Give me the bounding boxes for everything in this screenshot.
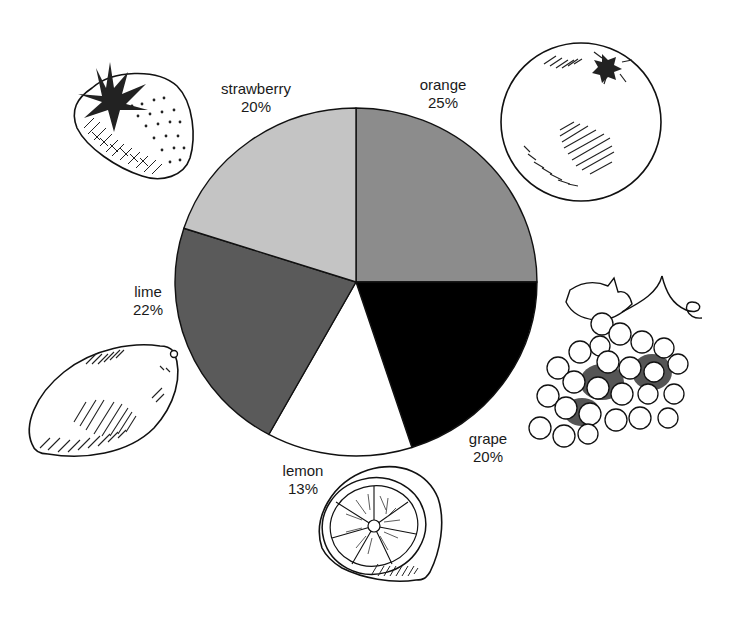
label-lime: lime 22% bbox=[118, 283, 178, 319]
label-grape: grape 20% bbox=[458, 430, 518, 466]
label-lime-pct: 22% bbox=[118, 301, 178, 319]
lime-illustration bbox=[24, 336, 200, 466]
label-lime-name: lime bbox=[118, 283, 178, 301]
label-strawberry: strawberry 20% bbox=[208, 80, 304, 116]
label-orange-name: orange bbox=[403, 76, 483, 94]
label-strawberry-pct: 20% bbox=[208, 98, 304, 116]
label-grape-name: grape bbox=[458, 430, 518, 448]
label-orange: orange 25% bbox=[403, 76, 483, 112]
label-orange-pct: 25% bbox=[403, 94, 483, 112]
pie-slices bbox=[175, 108, 537, 456]
strawberry-illustration bbox=[62, 48, 202, 188]
label-strawberry-name: strawberry bbox=[208, 80, 304, 98]
grape-illustration bbox=[522, 272, 722, 452]
lemon-half-illustration bbox=[312, 462, 450, 588]
orange-illustration bbox=[494, 34, 670, 210]
label-grape-pct: 20% bbox=[458, 448, 518, 466]
